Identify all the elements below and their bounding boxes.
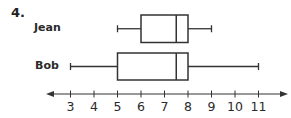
box-jean [118,15,212,43]
arrow-right-icon [280,91,288,97]
tick-label: 5 [114,99,122,114]
tick-label: 11 [251,99,267,114]
arrow-left-icon [46,91,54,97]
tick-label: 6 [137,99,145,114]
box-iqr [141,15,188,43]
tick-label: 3 [67,99,75,114]
box-plot-chart: 34567891011 [0,0,291,118]
tick-label: 10 [227,99,243,114]
boxes-group [71,15,259,80]
tick-label: 8 [184,99,192,114]
box-iqr [118,53,189,80]
tick-label: 7 [161,99,169,114]
tick-label: 9 [208,99,216,114]
box-bob [71,53,259,80]
tick-label: 4 [90,99,98,114]
number-line-axis: 34567891011 [46,91,288,115]
